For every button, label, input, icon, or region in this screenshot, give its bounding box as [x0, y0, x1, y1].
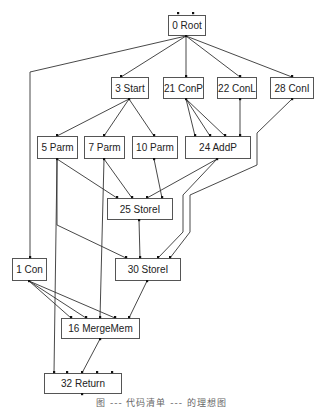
port-dot-icon: [169, 256, 171, 258]
edge-25-storei-to-30-storei: [139, 220, 140, 258]
edge-21-conp-to-24-addp: [186, 99, 195, 136]
node-label: 24 AddP: [199, 142, 237, 153]
edge-5-parm-to-32-return: [54, 159, 57, 373]
edge-0-root-to-28-coni: [186, 36, 292, 77]
edge-7-parm-to-16-mergemem: [100, 159, 104, 318]
port-dot-icon: [185, 98, 187, 100]
port-dot-icon: [28, 280, 30, 282]
port-dot-icon: [120, 75, 122, 77]
edge-0-root-to-3-start: [121, 36, 186, 77]
node-28-coni[interactable]: 28 ConI: [271, 78, 314, 99]
port-dot-icon: [103, 134, 105, 136]
node-1-con[interactable]: 1 Con: [13, 259, 47, 281]
port-dot-icon: [224, 134, 226, 136]
port-dot-icon: [56, 158, 58, 160]
node-label: 16 MergeMem: [68, 323, 132, 334]
node-label: 25 StoreI: [120, 204, 161, 215]
port-dot-icon: [194, 134, 196, 136]
node-24-addp[interactable]: 24 AddP: [186, 137, 251, 159]
edge-24-addp-to-25-storei: [147, 159, 217, 198]
port-dot-icon: [66, 371, 68, 373]
port-dot-icon: [138, 219, 140, 221]
edge-21-conp-to-24-addp: [186, 99, 210, 136]
port-dot-icon: [128, 98, 130, 100]
edge-3-start-to-7-parm: [104, 99, 129, 136]
port-dot-icon: [128, 316, 130, 318]
port-dot-icon: [81, 371, 83, 373]
port-dot-icon: [161, 196, 163, 198]
node-label: 1 Con: [16, 264, 43, 275]
port-dot-icon: [153, 134, 155, 136]
port-dot-icon: [177, 12, 179, 14]
edge-0-root-to-22-conl: [186, 36, 240, 77]
node-label: 0 Root: [172, 20, 202, 31]
node-30-storei[interactable]: 30 StoreI: [116, 259, 181, 281]
node-32-return[interactable]: 32 Return: [45, 374, 122, 394]
port-dot-icon: [125, 256, 127, 258]
port-dot-icon: [185, 75, 187, 77]
port-dot-icon: [239, 75, 241, 77]
port-dot-icon: [111, 371, 113, 373]
node-10-parm[interactable]: 10 Parm: [133, 137, 178, 159]
node-21-conp[interactable]: 21 ConP: [164, 78, 204, 99]
port-dot-icon: [157, 256, 159, 258]
node-label: 3 Start: [115, 83, 145, 94]
edge-21-conp-to-24-addp: [186, 99, 225, 136]
port-dot-icon: [139, 256, 141, 258]
edge-16-mergemem-to-32-return: [82, 339, 100, 373]
edge-1-con-to-16-mergemem: [29, 281, 86, 318]
edge-3-start-to-10-parm: [129, 99, 154, 136]
port-dot-icon: [56, 134, 58, 136]
edge-28-coni-to-30-storei: [170, 99, 292, 258]
port-dot-icon: [146, 196, 148, 198]
port-dot-icon: [114, 316, 116, 318]
node-label: 22 ConL: [218, 83, 256, 94]
port-dot-icon: [103, 158, 105, 160]
graph-nodes: 0 Root3 Start21 ConP22 ConL28 ConI5 Parm…: [13, 16, 314, 394]
node-label: 5 Parm: [41, 142, 73, 153]
port-dot-icon: [96, 371, 98, 373]
port-dot-icon: [53, 371, 55, 373]
port-dot-icon: [131, 196, 133, 198]
port-dot-icon: [291, 98, 293, 100]
port-dot-icon: [239, 134, 241, 136]
node-16-mergemem[interactable]: 16 MergeMem: [62, 319, 140, 339]
node-label: 10 Parm: [136, 142, 174, 153]
port-dot-icon: [81, 393, 83, 395]
node-label: 28 ConI: [274, 83, 309, 94]
port-dot-icon: [146, 280, 148, 282]
ideal-graph-diagram: 0 Root3 Start21 ConP22 ConL28 ConI5 Parm…: [0, 0, 323, 409]
port-dot-icon: [291, 75, 293, 77]
port-dot-icon: [99, 316, 101, 318]
port-dot-icon: [209, 134, 211, 136]
node-label: 30 StoreI: [128, 264, 169, 275]
node-0-root[interactable]: 0 Root: [169, 16, 206, 36]
port-dot-icon: [29, 256, 31, 258]
edge-30-storei-to-16-mergemem: [129, 281, 147, 318]
port-dot-icon: [116, 196, 118, 198]
node-5-parm[interactable]: 5 Parm: [38, 137, 78, 159]
port-dot-icon: [216, 158, 218, 160]
node-22-conl[interactable]: 22 ConL: [218, 78, 257, 99]
node-label: 7 Parm: [88, 142, 120, 153]
port-dot-icon: [185, 35, 187, 37]
node-3-start[interactable]: 3 Start: [112, 78, 149, 99]
edge-1-con-to-16-mergemem: [29, 281, 71, 318]
port-dot-icon: [239, 98, 241, 100]
edge-3-start-to-5-parm: [57, 99, 129, 136]
port-dot-icon: [192, 12, 194, 14]
node-label: 21 ConP: [164, 83, 203, 94]
port-dot-icon: [70, 316, 72, 318]
edge-1-con-to-16-mergemem: [29, 281, 115, 318]
node-7-parm[interactable]: 7 Parm: [85, 137, 125, 159]
node-label: 32 Return: [61, 378, 105, 389]
port-dot-icon: [153, 158, 155, 160]
port-dot-icon: [99, 338, 101, 340]
node-25-storei[interactable]: 25 StoreI: [108, 199, 173, 220]
port-dot-icon: [85, 316, 87, 318]
figure-caption: 图 --- 代码清单 --- 的理想图: [0, 396, 323, 409]
